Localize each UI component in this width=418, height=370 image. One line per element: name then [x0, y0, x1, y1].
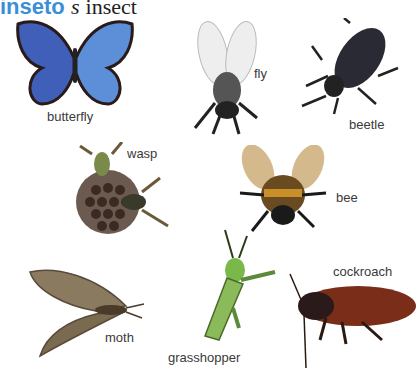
grasshopper-illustration: [185, 228, 285, 348]
headword: inseto: [0, 0, 65, 19]
label-bee: bee: [336, 190, 358, 205]
cockroach-illustration: [286, 270, 418, 370]
label-beetle: beetle: [349, 117, 384, 132]
label-butterfly: butterfly: [47, 109, 93, 124]
part-of-speech: s: [71, 0, 80, 19]
label-fly: fly: [254, 66, 267, 81]
moth-illustration: [26, 266, 146, 361]
entry-heading: inseto s insect: [0, 0, 137, 20]
butterfly-illustration: [14, 18, 136, 108]
label-cockroach: cockroach: [333, 264, 392, 279]
bee-illustration: [228, 145, 338, 240]
translation: insect: [86, 0, 137, 19]
label-grasshopper: grasshopper: [168, 350, 240, 365]
label-wasp: wasp: [127, 146, 157, 161]
label-moth: moth: [105, 330, 134, 345]
beetle-illustration: [298, 18, 403, 118]
